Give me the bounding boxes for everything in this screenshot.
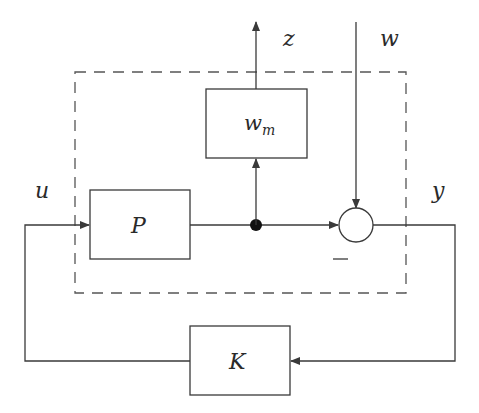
signal-label-u: u xyxy=(35,178,49,203)
controller-block[interactable]: K xyxy=(190,326,290,395)
summing-junction[interactable] xyxy=(339,208,373,242)
block-diagram: wm P K u y z w xyxy=(0,0,479,413)
signal-label-y: y xyxy=(431,178,445,203)
weight-block[interactable]: wm xyxy=(206,89,307,158)
signal-label-z: z xyxy=(282,26,295,51)
controller-block-label: K xyxy=(228,349,247,374)
plant-block-label: P xyxy=(130,213,147,238)
signal-label-w: w xyxy=(380,26,399,51)
plant-block[interactable]: P xyxy=(90,190,190,259)
feedback-y-line xyxy=(291,225,455,361)
